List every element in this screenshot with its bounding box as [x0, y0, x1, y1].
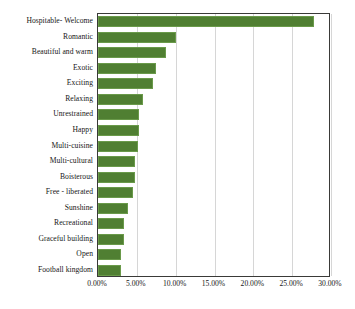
x-tick-label: 30.00% [300, 279, 355, 289]
category-label: Sunshine [0, 203, 93, 212]
category-label: Graceful building [0, 234, 93, 243]
bar [98, 141, 138, 152]
category-label: Hospitable- Welcome [0, 16, 93, 25]
bar [98, 203, 128, 214]
bar [98, 156, 135, 167]
value-axis: 0.00%5.00%10.00%15.00%20.00%25.00%30.00% [0, 279, 355, 297]
bar [98, 16, 314, 27]
category-axis: Hospitable- WelcomeRomanticBeautiful and… [0, 13, 93, 277]
bar [98, 187, 133, 198]
category-label: Happy [0, 125, 93, 134]
bar-chart: Hospitable- WelcomeRomanticBeautiful and… [0, 0, 355, 309]
bar [98, 63, 156, 74]
plot-area [97, 13, 330, 277]
category-label: Football kingdom [0, 265, 93, 274]
category-label: Exciting [0, 78, 93, 87]
bar [98, 32, 176, 43]
bar [98, 234, 124, 245]
category-label: Relaxing [0, 94, 93, 103]
bars-layer [98, 14, 329, 276]
category-label: Unrestrained [0, 109, 93, 118]
bar [98, 94, 143, 105]
gridline [331, 14, 332, 276]
bar [98, 249, 121, 260]
bar [98, 125, 139, 136]
bar [98, 78, 153, 89]
category-label: Exotic [0, 63, 93, 72]
category-label: Recreational [0, 218, 93, 227]
category-label: Beautiful and warm [0, 47, 93, 56]
bar [98, 47, 166, 58]
category-label: Open [0, 249, 93, 258]
category-label: Multi-cuisine [0, 141, 93, 150]
category-label: Free - liberated [0, 187, 93, 196]
bar [98, 172, 135, 183]
category-label: Boisterous [0, 172, 93, 181]
bar [98, 109, 139, 120]
bar [98, 218, 124, 229]
category-label: Multi-cultural [0, 156, 93, 165]
bar [98, 265, 121, 276]
category-label: Romantic [0, 32, 93, 41]
